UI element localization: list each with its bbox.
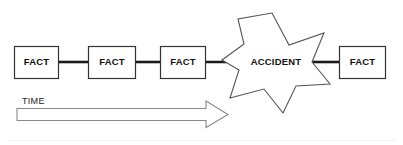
fact-1-label: FACT xyxy=(24,56,50,67)
node-fact-1[interactable]: FACT xyxy=(15,47,59,79)
node-fact-3[interactable]: FACT xyxy=(161,47,206,79)
node-fact-4[interactable]: FACT xyxy=(340,47,386,79)
accident-chain-diagram: ACCIDENT FACT FACT FACT FACT TIME xyxy=(0,0,403,145)
time-arrow-shape xyxy=(17,101,228,128)
accident-label: ACCIDENT xyxy=(251,56,302,67)
node-fact-2[interactable]: FACT xyxy=(89,47,136,79)
fact-2-label: FACT xyxy=(99,56,125,67)
time-axis-label: TIME xyxy=(22,96,45,106)
fact-4-label: FACT xyxy=(350,56,376,67)
fact-3-label: FACT xyxy=(170,56,196,67)
diagram-canvas: ACCIDENT FACT FACT FACT FACT TIME xyxy=(0,0,403,145)
time-axis-arrow: TIME xyxy=(17,96,228,127)
